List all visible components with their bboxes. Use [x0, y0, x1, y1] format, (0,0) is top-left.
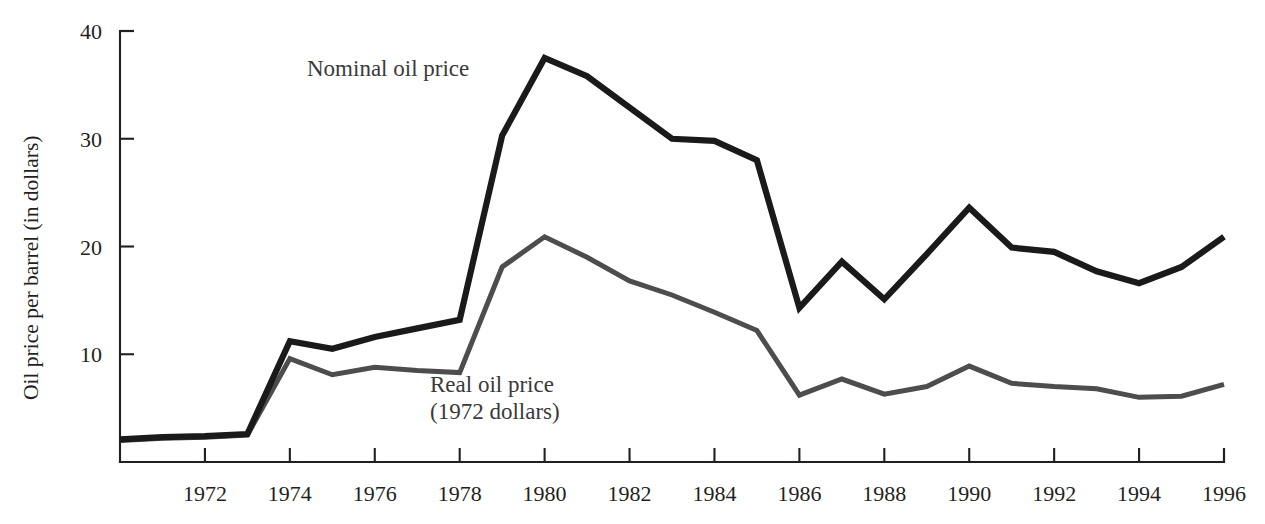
- x-tick-label-1982: 1982: [608, 481, 652, 506]
- oil-price-chart-figure: Oil price per barrel (in dollars) 102030…: [0, 0, 1265, 524]
- y-tick-label-30: 30: [80, 127, 102, 152]
- y-tick-label-10: 10: [80, 342, 102, 367]
- annotation-nominal-oil-price: Nominal oil price: [307, 56, 469, 81]
- x-tick-label-1978: 1978: [438, 481, 482, 506]
- x-tick-label-1992: 1992: [1032, 481, 1076, 506]
- chart-canvas: Oil price per barrel (in dollars) 102030…: [0, 0, 1265, 524]
- x-tick-label-1972: 1972: [183, 481, 227, 506]
- series-line-real-oil-price: [120, 237, 1224, 441]
- axes: [120, 31, 1224, 462]
- y-axis-label: Oil price per barrel (in dollars): [19, 136, 43, 400]
- x-tick-group: 1972197419761978198019821984198619881990…: [183, 448, 1246, 506]
- annotation-real-oil-price-line1: Real oil price: [430, 372, 554, 397]
- x-tick-label-1986: 1986: [777, 481, 821, 506]
- x-tick-label-1976: 1976: [353, 481, 397, 506]
- y-tick-label-20: 20: [80, 235, 102, 260]
- x-tick-label-1988: 1988: [862, 481, 906, 506]
- x-tick-label-1996: 1996: [1202, 481, 1246, 506]
- annotation-real-oil-price-line2: (1972 dollars): [430, 399, 560, 424]
- x-tick-label-1980: 1980: [523, 481, 567, 506]
- x-tick-label-1984: 1984: [692, 481, 736, 506]
- series-line-nominal-oil-price: [120, 58, 1224, 439]
- x-tick-label-1974: 1974: [268, 481, 312, 506]
- y-axis-label-text: Oil price per barrel (in dollars): [19, 136, 43, 400]
- y-tick-group: 10203040: [80, 19, 134, 367]
- x-tick-label-1994: 1994: [1117, 481, 1161, 506]
- y-tick-label-40: 40: [80, 19, 102, 44]
- x-tick-label-1990: 1990: [947, 481, 991, 506]
